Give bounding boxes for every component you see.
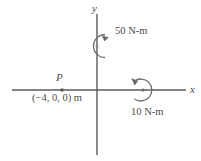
point-p-coordinates-label: (−4, 0, 0) m xyxy=(32,93,82,104)
moment-y-arrowhead-icon xyxy=(102,35,109,41)
moment-y-center-dot xyxy=(96,45,99,48)
diagram-canvas xyxy=(0,0,201,161)
point-p-label: P xyxy=(56,72,63,83)
y-axis-label: y xyxy=(92,3,97,14)
free-body-diagram: y x P (−4, 0, 0) m 50 N-m 10 N-m xyxy=(0,0,201,161)
moment-about-y-label: 50 N-m xyxy=(115,26,147,37)
moment-x-center-dot xyxy=(141,88,144,91)
x-axis-label: x xyxy=(190,84,195,95)
moment-about-x-label: 10 N-m xyxy=(131,107,163,118)
